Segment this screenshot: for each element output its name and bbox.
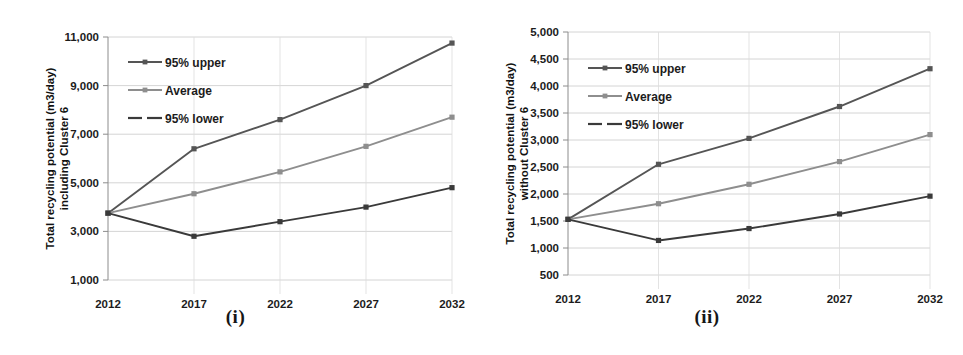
y-tick-label: 11,000 [64,31,99,43]
data-point-marker [449,40,454,45]
data-point-marker [277,117,282,122]
y-tick-label: 4,500 [530,53,559,65]
data-point-marker [363,144,368,149]
data-point-marker [746,182,751,187]
y-axis-title-line1: Total recycling potential (m3/day) [44,67,56,249]
data-point-marker [837,211,842,216]
data-point-marker [837,159,842,164]
y-tick-label: 1,000 [530,242,559,254]
data-point-marker [277,169,282,174]
y-axis-title-line2: without Cluster 6 [518,107,530,201]
legend-item-label: 95% upper [165,56,226,70]
data-point-marker [449,115,454,120]
data-point-marker [363,83,368,88]
data-point-marker [656,162,661,167]
legend-item-label: 95% lower [625,118,684,132]
y-tick-label: 2,000 [530,188,559,200]
y-tick-label: 9,000 [70,80,99,92]
data-point-marker [656,201,661,206]
data-point-marker [363,205,368,210]
panel-caption-i: (i) [0,306,481,328]
y-tick-label: 7,000 [70,128,99,140]
panel-caption-ii: (ii) [481,306,963,328]
x-tick-label: 2022 [736,293,762,305]
legend-swatch-marker [143,88,148,93]
data-point-marker [191,234,196,239]
x-tick-label: 2017 [646,293,672,305]
data-point-marker [746,136,751,141]
data-point-marker [746,226,751,231]
data-point-marker [105,211,110,216]
y-tick-label: 500 [540,269,559,281]
y-tick-label: 5,000 [530,26,559,38]
chart-panel-ii: 5001,0001,5002,0002,5003,0003,5004,0004,… [481,0,963,355]
data-point-marker [191,146,196,151]
y-tick-label: 3,000 [70,225,99,237]
line-chart-i: 1,0003,0005,0007,0009,00011,000201220172… [0,0,481,310]
legend-item-label: 95% upper [625,62,686,76]
chart-panel-i: 1,0003,0005,0007,0009,00011,000201220172… [0,0,481,355]
data-point-marker [191,191,196,196]
data-point-marker [927,194,932,199]
data-point-marker [927,66,932,71]
plot-area-ii: 5001,0001,5002,0002,5003,0003,5004,0004,… [481,0,963,310]
y-tick-label: 4,000 [530,80,559,92]
x-tick-label: 2027 [827,293,853,305]
y-axis-title-line1: Total recycling potential (m3/day) [504,62,516,244]
data-point-marker [565,217,570,222]
figure-row: 1,0003,0005,0007,0009,00011,000201220172… [0,0,963,355]
x-tick-label: 2012 [555,293,581,305]
y-tick-label: 2,500 [530,161,559,173]
y-tick-label: 1,000 [70,274,99,286]
data-point-marker [449,185,454,190]
y-tick-label: 3,500 [530,107,559,119]
legend-item-label: Average [625,90,672,104]
y-tick-label: 1,500 [530,215,559,227]
data-point-marker [277,219,282,224]
data-point-marker [837,104,842,109]
legend-item-label: 95% lower [165,112,224,126]
line-chart-ii: 5001,0001,5002,0002,5003,0003,5004,0004,… [481,0,963,310]
data-point-marker [927,132,932,137]
legend-item-label: Average [165,84,212,98]
y-tick-label: 5,000 [70,177,99,189]
legend-swatch-marker [603,66,608,71]
plot-area-i: 1,0003,0005,0007,0009,00011,000201220172… [0,0,481,310]
x-tick-label: 2032 [917,293,943,305]
data-point-marker [656,238,661,243]
legend-swatch-marker [603,94,608,99]
legend-swatch-marker [143,60,148,65]
y-tick-label: 3,000 [530,134,559,146]
y-axis-title-line2: including Cluster 6 [58,107,70,211]
